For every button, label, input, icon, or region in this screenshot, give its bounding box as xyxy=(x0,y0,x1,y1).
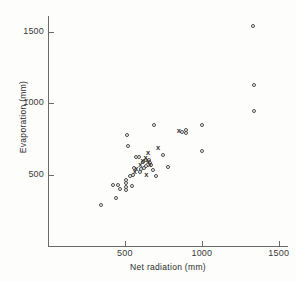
data-point-circle xyxy=(114,196,118,200)
y-axis-title: Evaporation (mm) xyxy=(18,42,28,192)
data-point-circle xyxy=(154,174,158,178)
data-point-circle xyxy=(166,165,170,169)
data-point-cross: x xyxy=(147,161,151,169)
data-point-circle xyxy=(125,133,129,137)
data-point-cross: x xyxy=(156,144,160,152)
y-tick-label: 1500 xyxy=(4,26,44,36)
data-point-circle xyxy=(252,109,256,113)
data-point-circle xyxy=(152,123,156,127)
data-point-circle xyxy=(251,24,255,28)
data-point-circle xyxy=(118,187,122,191)
x-tick-label: 1500 xyxy=(259,248,296,258)
data-point-circle xyxy=(184,131,188,135)
scatter-plot-figure: 5001000150050010001500 xxxxxxxxxxx Net r… xyxy=(0,0,296,282)
data-point-circle xyxy=(161,153,165,157)
data-point-circle xyxy=(200,149,204,153)
data-point-circle xyxy=(200,123,204,127)
data-point-cross: x xyxy=(146,149,150,157)
x-tick-label: 500 xyxy=(105,248,145,258)
data-point-cross: x xyxy=(177,127,181,135)
x-axis-title: Net radiation (mm) xyxy=(48,262,288,272)
plot-data-area: xxxxxxxxxxx xyxy=(48,16,288,246)
data-point-circle xyxy=(252,83,256,87)
data-point-cross: x xyxy=(144,171,148,179)
x-tick-label: 1000 xyxy=(182,248,222,258)
data-point-circle xyxy=(126,144,130,148)
data-point-circle xyxy=(111,183,115,187)
data-point-circle xyxy=(130,184,134,188)
data-point-circle xyxy=(151,168,155,172)
x-axis-spine xyxy=(48,246,288,247)
data-point-circle xyxy=(124,188,128,192)
data-point-circle xyxy=(99,203,103,207)
